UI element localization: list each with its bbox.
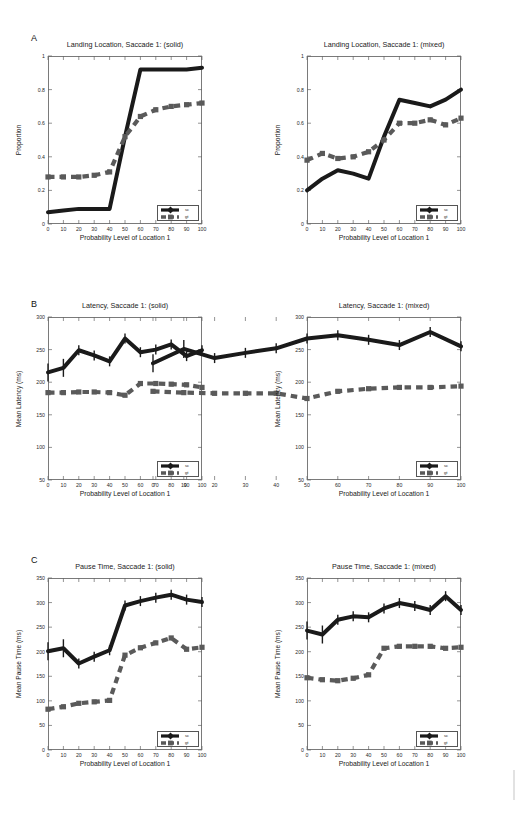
legend-entry-sc: sc (158, 462, 198, 469)
x-tick-label: 50 (298, 482, 316, 488)
y-tick-label: 150 (287, 673, 304, 679)
series-line-sc (48, 339, 202, 373)
series-marker-gt (169, 635, 174, 640)
x-tick-label: 90 (421, 482, 439, 488)
panel-letter-b: B (31, 299, 37, 309)
legend-label-gt: gt (444, 471, 448, 475)
series-marker-gt (428, 385, 433, 390)
series-marker-gt (366, 149, 371, 154)
y-tick-label: 250 (28, 624, 45, 630)
series-marker-gt (76, 389, 81, 394)
series-marker-gt (61, 704, 66, 709)
series-marker-gt (351, 676, 356, 681)
plot-svg (48, 317, 202, 480)
y-tick-label: 0.6 (287, 120, 304, 126)
y-tick-label: 350 (287, 575, 304, 581)
legend-label-sc: sc (444, 208, 448, 212)
x-tick-label: 100 (193, 226, 211, 232)
series-marker-gt (366, 386, 371, 391)
y-tick-label: 200 (287, 649, 304, 655)
x-axis-label: Probability Level of Location 1 (48, 490, 202, 497)
series-marker-gt (304, 396, 309, 401)
panel-letter-c: C (31, 555, 38, 565)
chart-legend[interactable]: scgt (157, 731, 199, 747)
y-axis-label: Mean Pause Time (ms) (15, 630, 22, 698)
series-marker-gt (45, 390, 50, 395)
y-tick-label: 100 (287, 444, 304, 450)
chart-title: Landing Location, Saccade 1: (solid) (48, 40, 202, 49)
x-axis-label: Probability Level of Location 1 (307, 490, 461, 497)
legend-entry-sc: sc (417, 206, 457, 213)
y-axis-label: Mean Latency (ms) (274, 370, 281, 426)
y-tick-label: 0.8 (287, 87, 304, 93)
x-tick-label: 0 (144, 482, 162, 488)
series-marker-gt (61, 390, 66, 395)
y-tick-label: 250 (287, 347, 304, 353)
legend-entry-sc: sc (158, 206, 198, 213)
legend-label-sc: sc (444, 464, 448, 468)
legend-label-sc: sc (185, 464, 189, 468)
series-marker-gt (335, 678, 340, 683)
chart-title: Pause Time, Saccade 1: (solid) (48, 562, 202, 571)
series-marker-gt (199, 385, 204, 390)
legend-entry-sc: sc (417, 462, 457, 469)
x-axis-label: Probability Level of Location 1 (48, 760, 202, 767)
series-marker-gt (184, 647, 189, 652)
legend-swatch-gt (419, 213, 441, 221)
series-marker-gt (304, 158, 309, 163)
chart-legend[interactable]: scgt (416, 205, 458, 221)
x-tick-label: 100 (452, 226, 470, 232)
plot-svg (307, 578, 461, 750)
series-marker-gt (397, 644, 402, 649)
y-tick-label: 300 (28, 314, 45, 320)
series-line-sc (307, 596, 461, 634)
chart-legend[interactable]: scgt (416, 731, 458, 747)
y-tick-label: 0.4 (287, 154, 304, 160)
series-marker-gt (107, 390, 112, 395)
y-tick-label: 250 (287, 624, 304, 630)
series-marker-gt (381, 137, 386, 142)
chart-a-right: Landing Location, Saccade 1: (mixed)00.2… (307, 56, 461, 224)
series-marker-gt (458, 384, 463, 389)
y-tick-label: 0.4 (28, 154, 45, 160)
chart-legend[interactable]: scgt (416, 461, 458, 477)
legend-swatch-gt (160, 739, 182, 747)
y-tick-label: 100 (287, 698, 304, 704)
series-marker-gt (458, 116, 463, 121)
series-marker-gt (61, 174, 66, 179)
y-tick-label: 200 (28, 649, 45, 655)
series-line-gt (48, 103, 202, 177)
x-tick-label: 100 (452, 752, 470, 758)
chart-c-left: Pause Time, Saccade 1: (solid)0501001502… (48, 578, 202, 750)
legend-swatch-gt (160, 213, 182, 221)
legend-swatch-gt (160, 469, 182, 477)
series-marker-gt (443, 646, 448, 651)
x-tick-label: 30 (236, 482, 254, 488)
legend-entry-gt: gt (158, 469, 198, 476)
legend-label-gt: gt (444, 741, 448, 745)
legend-entry-gt: gt (417, 739, 457, 746)
chart-legend[interactable]: scgt (157, 461, 199, 477)
y-tick-label: 250 (28, 347, 45, 353)
plot-svg (307, 317, 461, 480)
legend-entry-gt: gt (417, 213, 457, 220)
series-marker-gt (320, 677, 325, 682)
series-marker-gt (92, 699, 97, 704)
y-tick-label: 350 (28, 575, 45, 581)
x-tick-label: 40 (267, 482, 285, 488)
legend-label-sc: sc (444, 734, 448, 738)
y-axis-label: Mean Latency (ms) (15, 370, 22, 426)
figure-canvas: A B C Landing Location, Saccade 1: (soli… (0, 0, 518, 813)
series-marker-gt (428, 644, 433, 649)
series-marker-gt (335, 156, 340, 161)
x-axis-label: Probability Level of Location 1 (307, 234, 461, 241)
legend-swatch-gt (419, 469, 441, 477)
y-tick-label: 150 (287, 412, 304, 418)
chart-legend[interactable]: scgt (157, 205, 199, 221)
series-marker-gt (138, 381, 143, 386)
series-line-gt (307, 646, 461, 680)
series-marker-gt (76, 701, 81, 706)
series-marker-gt (199, 645, 204, 650)
series-marker-gt (184, 382, 189, 387)
series-marker-gt (381, 646, 386, 651)
